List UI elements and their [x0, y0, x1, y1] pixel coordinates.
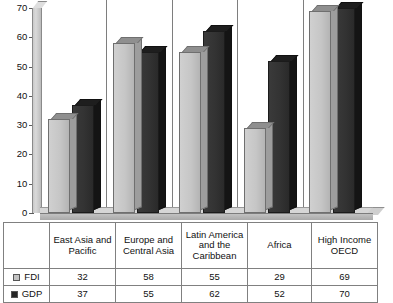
table-cell: 69: [312, 269, 378, 286]
y-axis-tick-label: 30: [5, 119, 27, 130]
bar-side-face: [266, 122, 273, 210]
table-cell: 29: [248, 269, 312, 286]
category-header: Latin America and the Caribbean: [182, 223, 248, 269]
bar-front-face: [179, 52, 201, 213]
table-cell: 55: [182, 269, 248, 286]
legend-label-fdi: FDI: [24, 271, 39, 282]
table-cell: 52: [248, 286, 312, 303]
bar-side-face: [94, 99, 101, 210]
y-axis-tick-label: 50: [5, 61, 27, 72]
y-axis-tick-label: 70: [5, 2, 27, 13]
category-header: East Asia and Pacific: [50, 223, 116, 269]
y-axis-tick-label: 20: [5, 148, 27, 159]
bar-side-face: [290, 55, 297, 210]
group-separator: [237, 0, 238, 213]
bar-front-face: [113, 43, 135, 213]
axis-wall: [32, 8, 42, 213]
bar-fdi-1: [113, 43, 135, 213]
bar-side-face: [159, 46, 166, 210]
table-row: FDI 32 58 55 29 69: [4, 269, 378, 286]
legend-label-gdp: GDP: [22, 288, 43, 299]
floor-front: [40, 213, 373, 220]
group-separator: [106, 0, 107, 213]
table-cell: 32: [50, 269, 116, 286]
table-cell: 37: [50, 286, 116, 303]
table-cell: 55: [116, 286, 182, 303]
legend-item-fdi: FDI: [4, 269, 50, 286]
group-separator: [172, 0, 173, 213]
y-axis-tick-label: 10: [5, 178, 27, 189]
category-header: Europe and Central Asia: [116, 223, 182, 269]
y-axis-tick-label: 40: [5, 90, 27, 101]
table-row: GDP 37 55 62 52 70: [4, 286, 378, 303]
bar-fdi-0: [48, 119, 70, 213]
plot-area: 010203040506070: [0, 0, 393, 222]
bar-front-face: [244, 128, 266, 213]
data-table-wrapper: East Asia and Pacific Europe and Central…: [3, 222, 377, 303]
bar-side-face: [225, 25, 232, 210]
table-corner-cell: [4, 223, 50, 269]
table-cell: 58: [116, 269, 182, 286]
y-axis-tick-label: 60: [5, 31, 27, 42]
table-header-row: East Asia and Pacific Europe and Central…: [4, 223, 378, 269]
category-header: Africa: [248, 223, 312, 269]
legend-swatch-fdi-icon: [13, 274, 20, 281]
bar-front-face: [48, 119, 70, 213]
legend-swatch-gdp-icon: [11, 291, 18, 298]
y-axis-tick-label: 0: [5, 207, 27, 218]
bar-side-face: [201, 46, 208, 210]
bar-fdi-3: [244, 128, 266, 213]
bar-front-face: [309, 11, 331, 213]
table-cell: 62: [182, 286, 248, 303]
bar-side-face: [70, 113, 77, 210]
legend-item-gdp: GDP: [4, 286, 50, 303]
bar-fdi-4: [309, 11, 331, 213]
category-header: High Income OECD: [312, 223, 378, 269]
bar-side-face: [331, 5, 338, 210]
bar-side-face: [135, 37, 142, 210]
data-table: East Asia and Pacific Europe and Central…: [3, 222, 378, 303]
group-separator: [303, 0, 304, 213]
y-axis-tick-mark: [29, 213, 34, 214]
bar-fdi-2: [179, 52, 201, 213]
bar-side-face: [355, 2, 362, 210]
table-cell: 70: [312, 286, 378, 303]
